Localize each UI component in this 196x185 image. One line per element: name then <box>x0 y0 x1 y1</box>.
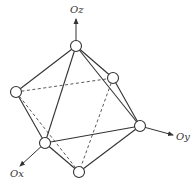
edge-top-front <box>45 46 76 143</box>
edge-left-front <box>16 92 45 143</box>
hidden-edge-back-right-bottom <box>79 78 113 172</box>
edge-right-bottom <box>79 126 140 172</box>
vertex-left <box>11 87 22 98</box>
hidden-edge-left-back-right <box>16 78 113 92</box>
vertex-back-right <box>108 73 119 84</box>
edge-front-bottom <box>45 143 79 172</box>
vertex-bottom <box>74 167 85 178</box>
edge-top-left <box>16 46 76 92</box>
edge-top-right <box>76 46 140 126</box>
edge-front-right <box>45 126 140 143</box>
hidden-edge-left-bottom <box>16 92 79 172</box>
axis-label-oz: Oz <box>70 4 84 15</box>
vertex-front <box>40 138 51 149</box>
octahedron-diagram: OzOyOx <box>0 0 196 185</box>
vertex-top <box>71 41 82 52</box>
edge-top-back-right <box>76 46 113 78</box>
edge-back-right-right <box>113 78 140 126</box>
axis-label-oy: Oy <box>176 131 190 142</box>
axis-labels: OzOyOx <box>10 4 190 179</box>
vertices <box>11 41 146 178</box>
vertex-right <box>135 121 146 132</box>
axis-label-ox: Ox <box>10 168 24 179</box>
